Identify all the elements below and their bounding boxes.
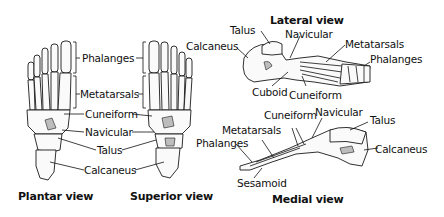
label-medial-talus: Talus: [370, 114, 395, 126]
label-metatarsals-plantar-superior: Metatarsals: [80, 88, 139, 100]
label-cuneiform-plantar-superior: Cuneiform: [85, 108, 138, 120]
label-medial-phalanges: Phalanges: [196, 137, 248, 149]
plantar-metatarsals: [28, 72, 71, 110]
label-navicular-plantar-superior: Navicular: [85, 126, 133, 138]
label-lateral-cuboid: Cuboid: [252, 86, 287, 98]
plantar-brackets: [73, 42, 80, 108]
label-medial-sesamoid: Sesamoid: [237, 177, 287, 189]
superior-tarsals: [148, 110, 191, 178]
superior-metatarsals: [149, 72, 192, 110]
foot-bones-illustration: [0, 0, 444, 217]
label-lateral-talus: Talus: [230, 24, 255, 36]
label-medial-calcaneus: Calcaneus: [375, 143, 427, 155]
plantar-tarsals: [27, 110, 70, 180]
label-lateral-calcaneus: Calcaneus: [186, 40, 238, 52]
label-talus-plantar-superior: Talus: [97, 144, 122, 156]
label-lateral-metatarsals: Metatarsals: [345, 38, 404, 50]
label-medial-navicular: Navicular: [315, 106, 363, 118]
plantar-view-foot: [27, 41, 71, 180]
label-lateral-phalanges: Phalanges: [370, 53, 422, 65]
label-lateral-cuneiform: Cuneiform: [289, 89, 342, 101]
superior-view-foot: [148, 41, 192, 178]
label-medial-cuneiform: Cuneiform: [264, 109, 317, 121]
label-phalanges-plantar-superior: Phalanges: [82, 52, 134, 64]
title-medial-view: Medial view: [272, 193, 343, 206]
label-lateral-navicular: Navicular: [285, 28, 333, 40]
label-calcaneus-plantar-superior: Calcaneus: [84, 164, 136, 176]
title-superior-view: Superior view: [130, 190, 213, 203]
label-medial-metatarsals: Metatarsals: [222, 124, 281, 136]
title-lateral-view: Lateral view: [270, 14, 344, 27]
title-plantar-view: Plantar view: [18, 190, 93, 203]
